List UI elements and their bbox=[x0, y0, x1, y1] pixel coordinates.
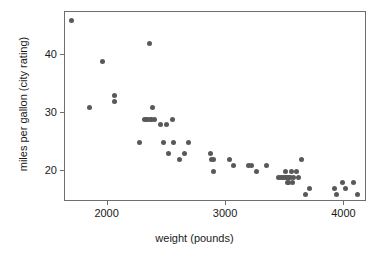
data-point bbox=[211, 157, 216, 162]
data-point bbox=[100, 59, 105, 64]
data-point bbox=[164, 122, 169, 127]
data-point bbox=[87, 105, 92, 110]
data-point bbox=[351, 180, 356, 185]
data-point bbox=[170, 117, 175, 122]
data-point bbox=[171, 140, 176, 145]
data-point bbox=[283, 169, 288, 174]
data-point bbox=[158, 122, 163, 127]
data-point bbox=[208, 151, 213, 156]
data-point bbox=[186, 140, 191, 145]
data-point bbox=[264, 163, 269, 168]
data-point bbox=[340, 180, 345, 185]
data-point bbox=[69, 18, 74, 23]
data-point bbox=[294, 169, 299, 174]
data-points-layer bbox=[65, 12, 365, 200]
data-point bbox=[166, 151, 171, 156]
data-point bbox=[211, 169, 216, 174]
x-tick-label: 3000 bbox=[213, 208, 237, 219]
data-point bbox=[296, 175, 301, 180]
data-point bbox=[254, 169, 259, 174]
data-point bbox=[355, 192, 360, 197]
y-tick-label: 40 bbox=[45, 49, 57, 60]
data-point bbox=[332, 186, 337, 191]
data-point bbox=[334, 192, 339, 197]
data-point bbox=[307, 186, 312, 191]
scatter-plot-figure: 203040 200030004000 miles per gallon (ci… bbox=[0, 0, 389, 262]
data-point bbox=[227, 157, 232, 162]
data-point bbox=[290, 180, 295, 185]
x-tick-mark bbox=[107, 201, 108, 205]
data-point bbox=[182, 151, 187, 156]
y-tick-mark bbox=[60, 54, 64, 55]
plot-area bbox=[64, 11, 366, 201]
data-point bbox=[147, 41, 152, 46]
data-point bbox=[161, 140, 166, 145]
data-point bbox=[177, 157, 182, 162]
x-axis-label: weight (pounds) bbox=[0, 232, 389, 244]
y-axis-label: miles per gallon (city rating) bbox=[17, 9, 29, 199]
data-point bbox=[112, 99, 117, 104]
y-tick-label: 20 bbox=[45, 165, 57, 176]
data-point bbox=[343, 186, 348, 191]
x-tick-mark bbox=[343, 201, 344, 205]
data-point bbox=[249, 163, 254, 168]
data-point bbox=[303, 192, 308, 197]
y-tick-label: 30 bbox=[45, 107, 57, 118]
y-tick-mark bbox=[60, 112, 64, 113]
data-point bbox=[112, 93, 117, 98]
data-point bbox=[137, 140, 142, 145]
data-point bbox=[231, 163, 236, 168]
data-point bbox=[150, 105, 155, 110]
x-tick-label: 4000 bbox=[331, 208, 355, 219]
data-point bbox=[299, 157, 304, 162]
data-point bbox=[152, 117, 157, 122]
y-tick-mark bbox=[60, 170, 64, 171]
x-tick-label: 2000 bbox=[94, 208, 118, 219]
x-tick-mark bbox=[225, 201, 226, 205]
